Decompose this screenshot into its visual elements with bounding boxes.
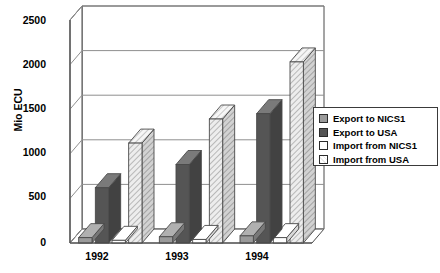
legend-label: Import from NICS1 <box>333 140 417 151</box>
legend-item: Import from USA <box>319 153 437 166</box>
legend-item: Export to USA <box>319 126 437 139</box>
legend-item: Export to NICS1 <box>319 112 437 125</box>
legend-swatch-import-nics1 <box>319 141 328 150</box>
legend-item: Import from NICS1 <box>319 139 437 152</box>
legend-swatch-export-usa <box>319 128 328 137</box>
legend-swatch-export-nics1 <box>319 114 328 123</box>
legend-swatch-import-usa <box>319 155 328 164</box>
legend-label: Export to USA <box>333 127 397 138</box>
chart-legend: Export to NICS1 Export to USA Import fro… <box>313 107 438 166</box>
legend-label: Export to NICS1 <box>333 113 405 124</box>
legend-label: Import from USA <box>333 154 409 165</box>
chart-figure: Mio ECU 2500 2000 1500 1000 500 0 1992 1… <box>0 0 440 273</box>
